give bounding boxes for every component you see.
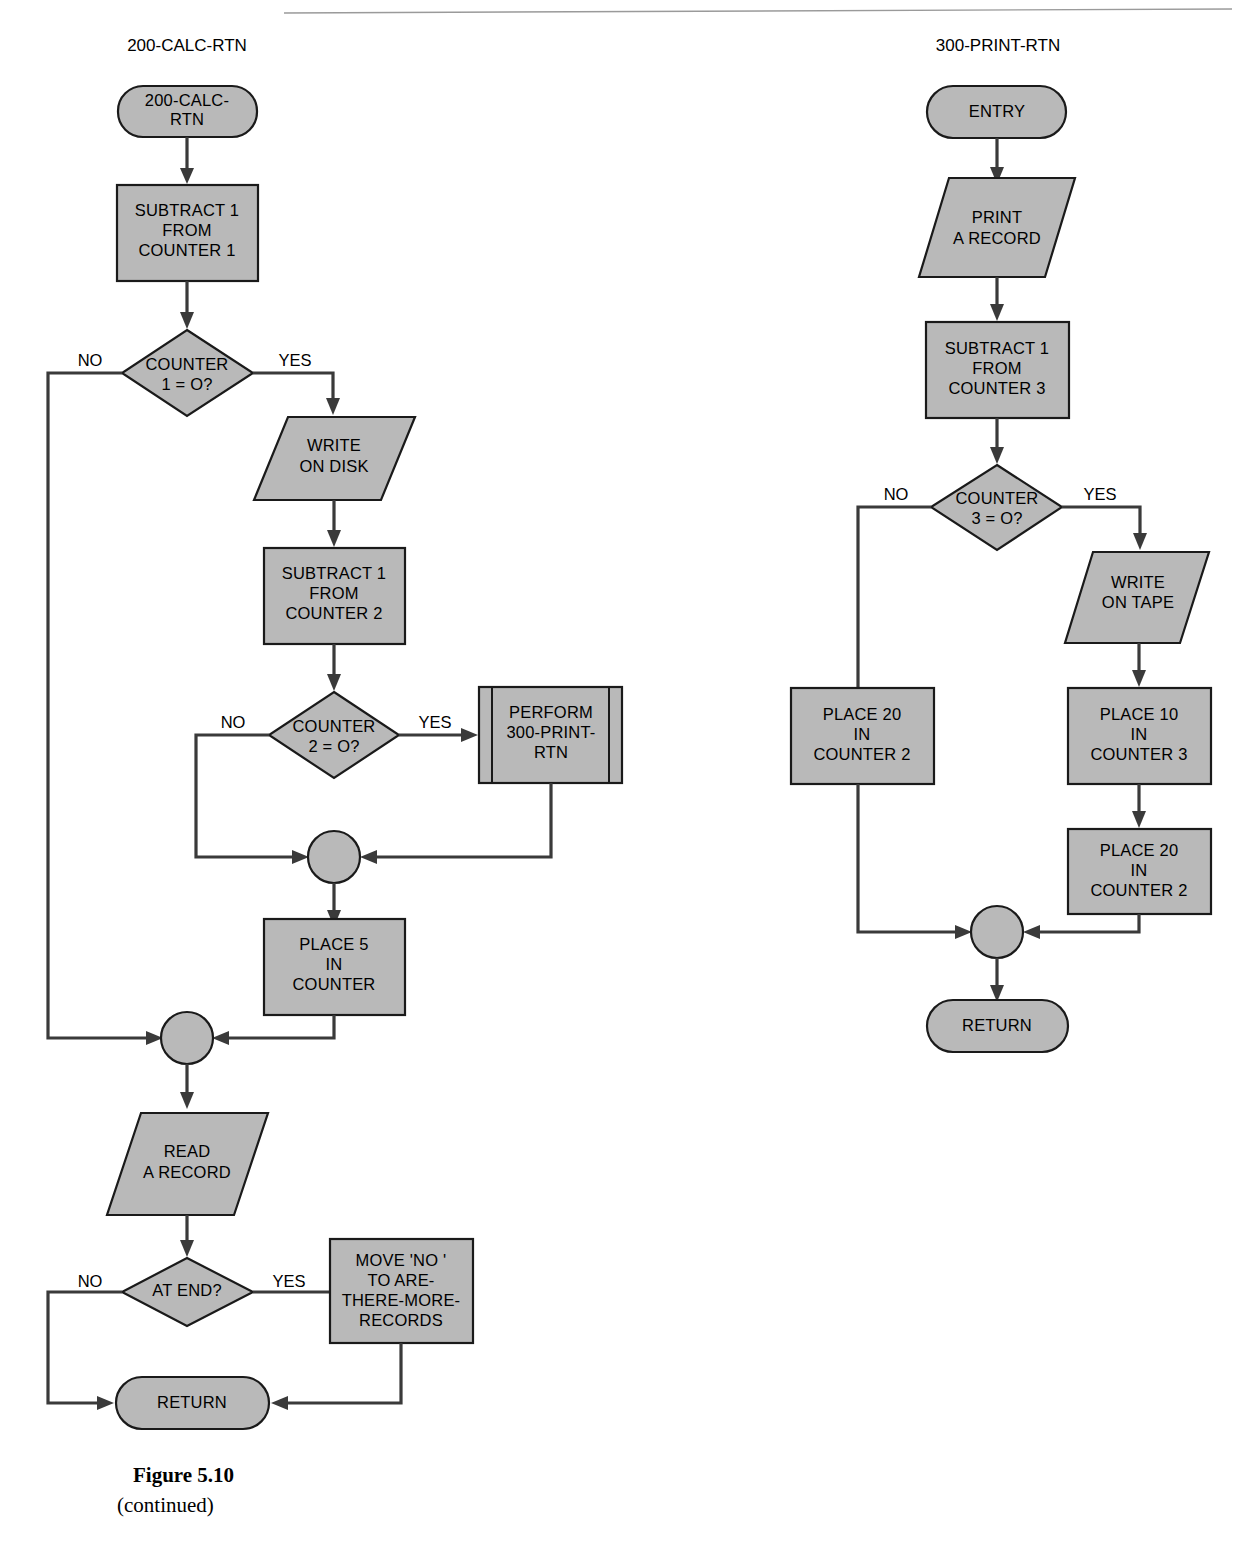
node-label-line1: PLACE 5: [299, 935, 368, 953]
node-label-line2: 1 = O?: [161, 375, 212, 393]
node-label-line2: 2 = O?: [308, 737, 359, 755]
branch-label-yes: YES: [272, 1272, 305, 1290]
node-return-left: RETURN: [116, 1377, 269, 1429]
node-label-line1: PLACE 20: [823, 705, 902, 723]
node-label-line3: COUNTER 3: [1090, 745, 1187, 763]
branch-label-yes: YES: [278, 351, 311, 369]
flow-l12-no-to-return: [48, 1292, 122, 1410]
node-decision-counter-2-equals-zero: COUNTER 2 = O?: [269, 692, 399, 778]
node-label-line2: ON DISK: [299, 457, 368, 475]
flow-l10-to-l11: [180, 1064, 194, 1109]
node-label-line3: THERE-MORE-: [342, 1291, 461, 1309]
node-write-on-tape: WRITE ON TAPE: [1065, 552, 1209, 643]
node-label-line2: IN: [1131, 861, 1148, 879]
node-label-line1: COUNTER: [293, 717, 376, 735]
node-read-a-record: READ A RECORD: [107, 1113, 268, 1215]
branch-label-no: NO: [221, 713, 246, 731]
node-label-line3: COUNTER 2: [813, 745, 910, 763]
node-label-line1: 200-CALC-: [145, 91, 229, 109]
node-label-line3: COUNTER 1: [138, 241, 235, 259]
node-move-no-to-are-there-more-records: MOVE 'NO ' TO ARE- THERE-MORE- RECORDS: [330, 1239, 473, 1343]
node-place-20-in-counter-2-right: PLACE 20 IN COUNTER 2: [1068, 829, 1211, 914]
node-label-line2: FROM: [972, 359, 1021, 377]
junction-connector-before-read: [161, 1012, 213, 1064]
node-label-line2: RTN: [170, 110, 204, 128]
flow-l2-to-l3: [180, 281, 194, 329]
flow-l4-to-l5: [327, 500, 341, 547]
flow-r2-to-r3: [990, 277, 1004, 321]
flowchart-figure: 200-CALC-RTN 200-CALC- RTN SUBTRACT 1 FR…: [0, 0, 1233, 1567]
node-label-line1: SUBTRACT 1: [945, 339, 1049, 357]
flow-r6-to-junction-r9: [858, 784, 972, 939]
flow-l3-no-to-junction-l10: [48, 373, 163, 1045]
branch-label-no: NO: [884, 485, 909, 503]
flow-r4-yes-to-r5: [1062, 507, 1147, 550]
figure-caption-title: Figure 5.10: [133, 1463, 234, 1487]
flow-l7-to-junction-l8: [360, 783, 551, 864]
flow-l1-to-l2: [180, 137, 194, 184]
node-label-line3: COUNTER 2: [285, 604, 382, 622]
flow-r4-no-down-left-branch: [858, 507, 931, 687]
flow-l11-to-l12: [180, 1215, 194, 1257]
junction-connector-before-return-right: [971, 906, 1023, 958]
node-label-line2: A RECORD: [953, 229, 1041, 247]
figure-caption-note: (continued): [117, 1493, 214, 1517]
column-title-300-print-rtn: 300-PRINT-RTN: [936, 36, 1060, 55]
branch-label-yes: YES: [1083, 485, 1116, 503]
node-200-calc-rtn-terminal: 200-CALC- RTN: [118, 86, 257, 137]
node-label-line2: IN: [1131, 725, 1148, 743]
node-label-line3: COUNTER 3: [948, 379, 1045, 397]
node-label-line3: COUNTER: [293, 975, 376, 993]
node-print-a-record: PRINT A RECORD: [919, 178, 1075, 277]
node-label-line2: ON TAPE: [1102, 593, 1174, 611]
branch-label-no: NO: [78, 1272, 103, 1290]
node-label-line1: COUNTER: [146, 355, 229, 373]
node-label-line1: RETURN: [962, 1016, 1032, 1034]
flow-l9-to-junction-l10: [212, 1015, 334, 1045]
flow-l3-yes-to-l4: [253, 373, 340, 415]
node-label-line2: FROM: [162, 221, 211, 239]
node-label-line2: TO ARE-: [367, 1271, 434, 1289]
flow-r7-to-r8: [1132, 784, 1146, 828]
branch-label-no: NO: [78, 351, 103, 369]
node-decision-at-end: AT END?: [122, 1258, 253, 1326]
node-place-5-in-counter: PLACE 5 IN COUNTER: [264, 919, 405, 1015]
node-label-line1: READ: [164, 1142, 211, 1160]
node-label-line3: COUNTER 2: [1090, 881, 1187, 899]
node-perform-300-print-rtn: PERFORM 300-PRINT- RTN: [479, 687, 622, 783]
node-decision-counter-1-equals-zero: COUNTER 1 = O?: [122, 330, 253, 416]
node-label-line1: PERFORM: [509, 703, 593, 721]
node-place-10-in-counter-3: PLACE 10 IN COUNTER 3: [1068, 688, 1211, 784]
node-label-line2: FROM: [309, 584, 358, 602]
node-label-line1: PLACE 10: [1100, 705, 1179, 723]
column-title-200-calc-rtn: 200-CALC-RTN: [127, 36, 247, 55]
node-subtract-1-from-counter-1: SUBTRACT 1 FROM COUNTER 1: [117, 185, 258, 281]
flow-l6-no-to-junction-l8: [196, 735, 309, 864]
node-label-line2: 300-PRINT-: [506, 723, 595, 741]
node-entry-terminal: ENTRY: [927, 86, 1066, 138]
flow-r3-to-r4: [990, 418, 1004, 464]
flow-r8-to-junction-r9: [1023, 914, 1139, 939]
node-subtract-1-from-counter-2: SUBTRACT 1 FROM COUNTER 2: [264, 548, 405, 644]
node-label-line1: MOVE 'NO ': [356, 1251, 447, 1269]
node-label-line1: WRITE: [307, 436, 361, 454]
node-label-line2: IN: [326, 955, 343, 973]
node-label-line1: COUNTER: [956, 489, 1039, 507]
node-label-line2: 3 = O?: [971, 509, 1022, 527]
node-label-line1: RETURN: [157, 1393, 227, 1411]
branch-label-yes: YES: [418, 713, 451, 731]
node-label-line1: SUBTRACT 1: [282, 564, 386, 582]
page-header-rule: [284, 9, 1232, 13]
node-label-line1: WRITE: [1111, 573, 1165, 591]
flow-r9-to-return: [990, 958, 1004, 1002]
node-label-line4: RECORDS: [359, 1311, 443, 1329]
junction-connector-after-perform: [308, 831, 360, 883]
node-label-line1: AT END?: [152, 1281, 222, 1299]
node-decision-counter-3-equals-zero: COUNTER 3 = O?: [931, 465, 1062, 550]
flow-r5-to-r7: [1132, 643, 1146, 687]
node-label-line1: ENTRY: [969, 102, 1026, 120]
flow-l13-to-return: [271, 1343, 401, 1410]
node-label-line1: PLACE 20: [1100, 841, 1179, 859]
node-label-line2: IN: [854, 725, 871, 743]
node-label-line3: RTN: [534, 743, 568, 761]
